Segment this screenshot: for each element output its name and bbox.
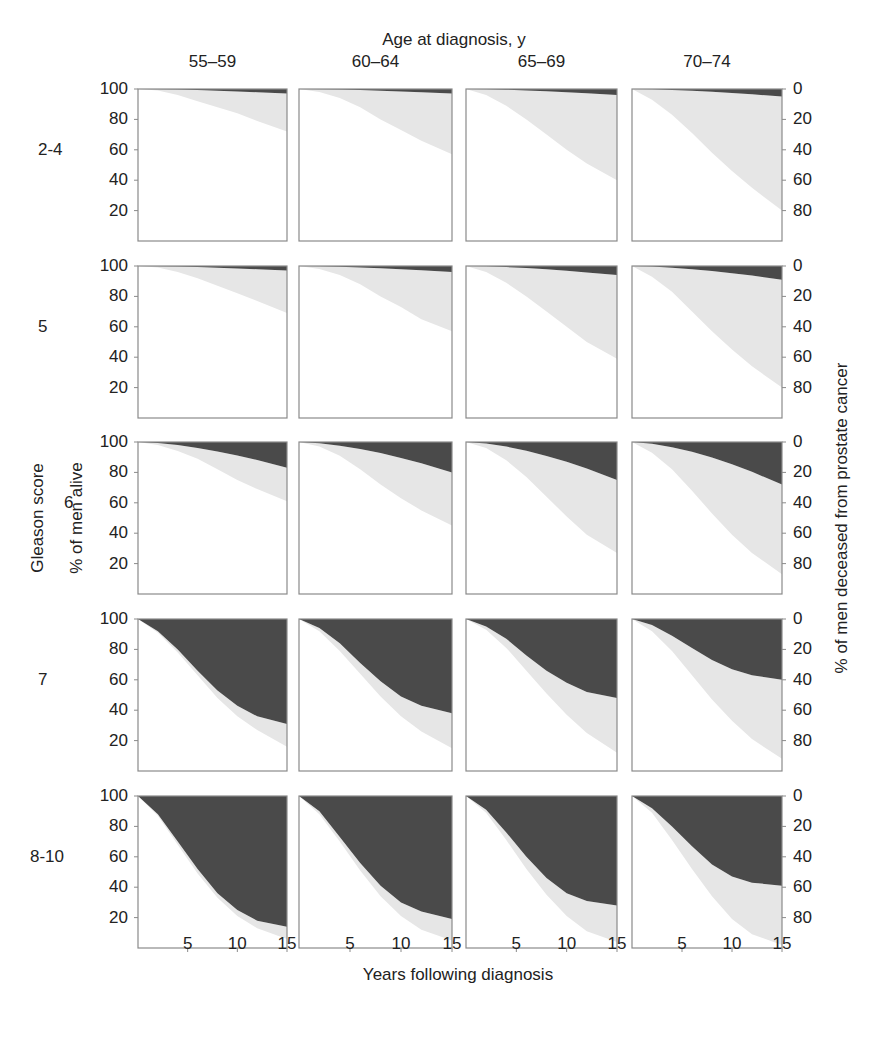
y-tick-right: 40: [793, 317, 812, 337]
panel-gleason-8-10-age-65–69: [466, 796, 617, 952]
panel-gleason-2-4-age-70–74: [632, 89, 786, 241]
y-tick-right: 20: [793, 816, 812, 836]
column-header-age-1: 60–64: [352, 52, 399, 72]
column-header-age-3: 70–74: [683, 52, 730, 72]
x-tick-label: 15: [773, 934, 792, 954]
y-tick-right: 40: [793, 670, 812, 690]
y-tick-right: 40: [793, 493, 812, 513]
row-label-gleason-7: 7: [38, 670, 47, 690]
column-header-age-2: 65–69: [518, 52, 565, 72]
row-label-gleason-6: 6: [64, 493, 73, 513]
y-tick-left: 40: [109, 523, 128, 543]
y-tick-left: 40: [109, 877, 128, 897]
x-tick-label: 5: [345, 934, 354, 954]
y-tick-right: 80: [793, 378, 812, 398]
y-tick-right: 0: [793, 432, 802, 452]
y-tick-right: 0: [793, 786, 802, 806]
x-tick-label: 10: [392, 934, 411, 954]
y-tick-right: 20: [793, 639, 812, 659]
row-label-gleason-2-4: 2-4: [38, 140, 63, 160]
y-tick-left: 20: [109, 731, 128, 751]
y-tick-right: 60: [793, 347, 812, 367]
row-label-gleason-8-10: 8-10: [30, 847, 64, 867]
panel-gleason-6-age-60–64: [299, 442, 452, 594]
y-tick-left: 40: [109, 170, 128, 190]
y-tick-left: 100: [100, 79, 128, 99]
panel-gleason-7-age-70–74: [632, 619, 786, 771]
y-tick-left: 20: [109, 378, 128, 398]
gleason-survival-small-multiples: Age at diagnosis, y Years following diag…: [0, 0, 877, 1043]
y-tick-right: 80: [793, 554, 812, 574]
x-tick-label: 15: [443, 934, 462, 954]
y-tick-right: 20: [793, 286, 812, 306]
y-tick-right: 80: [793, 731, 812, 751]
y-tick-right: 60: [793, 700, 812, 720]
y-axis-right-label: % of men deceased from prostate cancer: [832, 363, 852, 674]
x-tick-label: 10: [723, 934, 742, 954]
y-tick-right: 80: [793, 201, 812, 221]
y-tick-right: 60: [793, 523, 812, 543]
panel-gleason-7-age-55–59: [134, 619, 287, 771]
panel-gleason-2-4-age-65–69: [466, 89, 617, 241]
y-tick-right: 0: [793, 609, 802, 629]
x-tick-label: 5: [677, 934, 686, 954]
y-tick-left: 20: [109, 554, 128, 574]
panel-gleason-5-age-60–64: [299, 266, 452, 418]
y-tick-left: 20: [109, 201, 128, 221]
y-tick-right: 40: [793, 140, 812, 160]
panel-gleason-5-age-65–69: [466, 266, 617, 418]
y-tick-right: 80: [793, 908, 812, 928]
y-tick-left: 60: [109, 670, 128, 690]
panel-gleason-2-4-age-60–64: [299, 89, 452, 241]
x-tick-label: 5: [512, 934, 521, 954]
y-tick-right: 0: [793, 79, 802, 99]
panel-gleason-6-age-70–74: [632, 442, 786, 594]
y-tick-right: 0: [793, 256, 802, 276]
y-tick-left: 100: [100, 256, 128, 276]
y-tick-right: 20: [793, 109, 812, 129]
y-axis-left-label: % of men alive: [67, 462, 87, 574]
row-label-gleason-5: 5: [38, 317, 47, 337]
x-tick-label: 10: [557, 934, 576, 954]
y-tick-left: 40: [109, 347, 128, 367]
y-tick-right: 60: [793, 877, 812, 897]
row-group-label: Gleason score: [28, 463, 48, 573]
x-tick-label: 15: [278, 934, 297, 954]
x-axis-label: Years following diagnosis: [363, 965, 553, 985]
y-tick-left: 20: [109, 908, 128, 928]
y-tick-left: 60: [109, 847, 128, 867]
x-tick-label: 10: [228, 934, 247, 954]
y-tick-right: 60: [793, 170, 812, 190]
column-header-age-0: 55–59: [189, 52, 236, 72]
chart-title: Age at diagnosis, y: [382, 30, 526, 50]
panel-gleason-7-age-65–69: [466, 619, 617, 771]
y-tick-left: 40: [109, 700, 128, 720]
panel-gleason-8-10-age-70–74: [632, 796, 786, 952]
y-tick-left: 80: [109, 286, 128, 306]
panel-gleason-8-10-age-60–64: [299, 796, 452, 952]
y-tick-left: 80: [109, 816, 128, 836]
y-tick-left: 60: [109, 317, 128, 337]
panel-gleason-6-age-65–69: [466, 442, 617, 594]
y-tick-left: 80: [109, 639, 128, 659]
panel-gleason-7-age-60–64: [299, 619, 452, 771]
y-tick-left: 60: [109, 140, 128, 160]
x-tick-label: 15: [608, 934, 627, 954]
panel-gleason-2-4-age-55–59: [134, 89, 287, 241]
x-tick-label: 5: [183, 934, 192, 954]
y-tick-left: 80: [109, 109, 128, 129]
y-tick-left: 100: [100, 432, 128, 452]
y-tick-left: 60: [109, 493, 128, 513]
y-tick-left: 80: [109, 462, 128, 482]
panel-gleason-5-age-55–59: [134, 266, 287, 418]
y-tick-right: 20: [793, 462, 812, 482]
panel-gleason-6-age-55–59: [134, 442, 287, 594]
y-tick-right: 40: [793, 847, 812, 867]
y-tick-left: 100: [100, 609, 128, 629]
chart-canvas: [0, 0, 877, 1043]
panel-gleason-8-10-age-55–59: [134, 796, 287, 952]
y-tick-left: 100: [100, 786, 128, 806]
panel-gleason-5-age-70–74: [632, 266, 786, 418]
